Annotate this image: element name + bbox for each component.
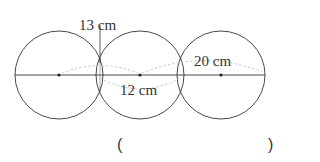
- label-20cm: 20 cm: [194, 54, 231, 69]
- center-dot-left: [57, 73, 60, 76]
- center-dot-middle: [138, 73, 141, 76]
- center-dot-right: [219, 73, 222, 76]
- answer-close-paren: ): [268, 137, 273, 153]
- answer-open-paren: (: [117, 137, 122, 153]
- label-13cm: 13 cm: [79, 18, 116, 33]
- label-12cm: 12 cm: [120, 83, 157, 98]
- answer-blank[interactable]: [130, 135, 260, 155]
